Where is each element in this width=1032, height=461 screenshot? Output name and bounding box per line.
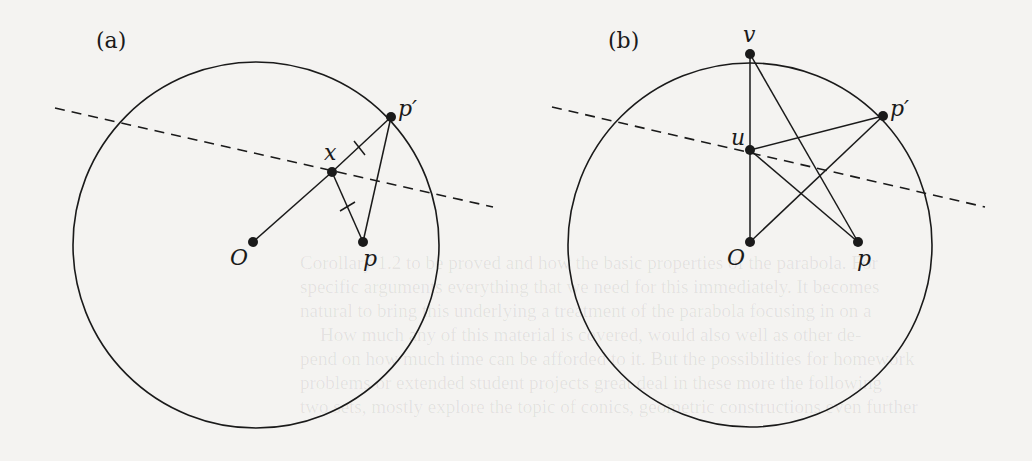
panel-b: (b) v u p′ O p <box>552 22 985 427</box>
point-p-prime <box>386 112 396 122</box>
panel-b-label: (b) <box>608 28 639 53</box>
label-u: u <box>731 125 745 150</box>
segment-p-pprime <box>363 117 391 242</box>
point-O <box>248 237 258 247</box>
panel-a-dashed-bisector <box>55 108 493 207</box>
segment-u-pprime <box>750 116 883 150</box>
geometry-figure: (a) O p x p′ (b) v u p′ O p <box>0 0 1032 461</box>
segment-v-p <box>750 54 858 242</box>
label-v: v <box>743 22 756 47</box>
segment-O-x <box>253 172 332 242</box>
label-O: O <box>727 245 745 270</box>
panel-b-dashed-bisector <box>552 107 985 207</box>
segment-u-p <box>750 150 858 242</box>
point-u <box>745 145 755 155</box>
label-p: p <box>363 246 377 271</box>
label-p-prime: p′ <box>398 96 417 121</box>
label-O: O <box>230 245 248 270</box>
segment-x-pprime <box>332 117 391 172</box>
panel-a: (a) O p x p′ <box>55 28 493 428</box>
label-p-prime: p′ <box>890 96 909 121</box>
segment-O-pprime <box>750 116 883 242</box>
label-p: p <box>857 246 871 271</box>
point-x <box>327 167 337 177</box>
tick-mark-x-p <box>340 202 355 211</box>
point-p-prime <box>878 111 888 121</box>
point-v <box>745 49 755 59</box>
panel-a-label: (a) <box>96 28 126 53</box>
point-O <box>745 237 755 247</box>
label-x: x <box>324 140 337 165</box>
